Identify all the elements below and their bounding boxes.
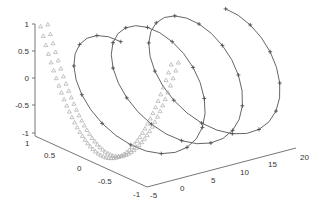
helix-3d-chart: 1 0.5 0 -0.5 -1 1 0.5 0 -0.5 -1 -5 0 5 1… [0,0,319,211]
z-tick-label: 0 [25,74,30,83]
x-tick-label: -5 [150,191,158,200]
z-tick-label: -1 [22,129,30,138]
y-tick-label: 0 [77,164,82,173]
helix-series [72,7,282,156]
z-axis-ticks: 1 0.5 0 -0.5 -1 [15,20,35,138]
x-tick-label: 15 [268,160,277,169]
y-tick-label: 1 [25,139,30,148]
x-tick-label: 5 [211,176,216,185]
y-axis-ticks: 1 0.5 0 -0.5 -1 [25,139,141,199]
z-tick-label: 0.5 [18,47,30,56]
y-tick-label: 0.5 [44,151,56,160]
x-tick-label: 0 [180,184,185,193]
x-tick-label: 10 [240,168,249,177]
z-tick-label: -0.5 [15,101,29,110]
y-tick-label: -0.5 [98,177,112,186]
x-axis-ticks: -5 0 5 10 15 20 [150,153,309,200]
triangle-series [39,22,181,159]
y-tick-label: -1 [133,190,141,199]
x-tick-label: 20 [300,153,309,162]
y-axis [35,136,147,187]
z-tick-label: 1 [25,20,30,29]
